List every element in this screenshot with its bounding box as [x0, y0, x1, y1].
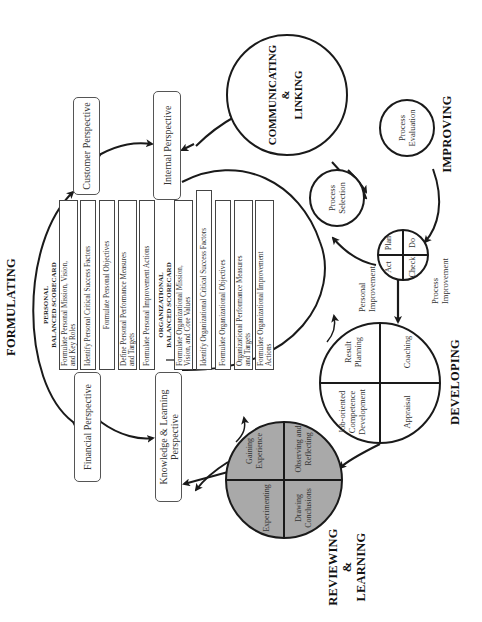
process-improvement-label: Process Improvement [430, 244, 450, 304]
label-line: and Targets [128, 204, 136, 366]
customer-perspective-box: Customer Perspective [73, 97, 100, 195]
label-line: Knowledge & Learning [158, 390, 169, 485]
observing-reflecting-label: Observing and Reflecting [294, 422, 314, 476]
label-line: Job-oriented [337, 383, 347, 441]
personal-step-2: Identify Personal Critical Success Facto… [80, 200, 96, 370]
organizational-step-4: Organizational Performance Measures and … [234, 200, 253, 370]
financial-perspective-box: Financial Perspective [74, 372, 101, 482]
label-line: REVIEWING [326, 522, 340, 612]
label-line: & [340, 522, 354, 612]
process-selection-label: Process Selection [327, 170, 347, 226]
pdca-plan: Plan [384, 232, 394, 254]
label-line: Actions [265, 204, 273, 366]
organizational-step-5: Formulate Organizational Improvement Act… [255, 200, 274, 370]
organizational-step-3: Formulate Organizational Objectives [215, 200, 231, 370]
label-line: Perspective [169, 414, 180, 460]
label-line: Selection [337, 170, 347, 226]
personal-scorecard-heading: PERSONAL BALANCED SCORECARD [43, 240, 58, 370]
developing-reviewing-arrow [340, 444, 380, 468]
pdca-act: Act [384, 256, 394, 278]
label-line: Process [430, 244, 440, 304]
label-line: LEARNING [354, 522, 368, 612]
label-line: BALANCED SCORECARD [166, 240, 174, 370]
phase-communicating-linking: COMMUNICATING & LINKING [266, 35, 305, 155]
label-line: & [279, 35, 292, 155]
label-line: Drawing [294, 482, 304, 534]
label-line: Formulate Personal Mission, Vision, [61, 204, 69, 366]
pdca-check: Check [408, 254, 418, 280]
experimenting-label: Experimenting [262, 480, 272, 536]
label-line: Formulate Personal Improvement Actions [143, 204, 151, 366]
appraisal-label: Appraisal [402, 385, 412, 439]
result-planning-label: Result Planning [343, 326, 363, 378]
label-line: Formulate Organizational Mission, [176, 204, 184, 366]
label-line: Formulate Organizational Improvement [257, 204, 265, 366]
internal-perspective-box: Internal Perspective [153, 91, 181, 200]
label-line: BALANCED SCORECARD [51, 240, 59, 370]
organizational-step-2: Identify Organizational Critical Success… [196, 190, 212, 370]
personal-step-4: Define Personal Performance Measures and… [118, 200, 137, 370]
label-line: Development [357, 383, 367, 441]
label-line: Personal [357, 252, 367, 312]
phase-improving: IMPROVING [440, 84, 454, 184]
pdca-do: Do [408, 232, 418, 254]
customer-internal-arrow [101, 143, 152, 154]
label-line: Improvement [367, 252, 377, 312]
personal-step-3: Formulate Personal Objectives [99, 200, 115, 370]
label-line: Identify Personal Critical Success Facto… [84, 204, 92, 366]
label-line: COMMUNICATING [266, 35, 279, 155]
label-line: Evaluation [407, 100, 417, 156]
diagram-canvas: FORMULATING COMMUNICATING & LINKING IMPR… [0, 0, 482, 622]
personal-step-1: Formulate Personal Mission, Vision, and … [59, 200, 78, 370]
drawing-conclusions-label: Drawing Conclusions [294, 482, 314, 534]
label-line: Improvement [440, 244, 450, 304]
label-line: and Targets [244, 204, 252, 366]
label-line: Gaining [245, 426, 255, 476]
competence-development-label: Job-oriented Competence Development [337, 383, 367, 441]
label-line: Vision, and Core Values [184, 204, 192, 366]
label-line: Planning [353, 326, 363, 378]
knowledge-learning-perspective-box: Knowledge & Learning Perspective [155, 372, 182, 502]
organizational-step-1: Formulate Organizational Mission, Vision… [174, 200, 193, 370]
process-evaluation-label: Process Evaluation [397, 100, 417, 156]
coaching-label: Coaching [402, 326, 412, 378]
label-line: Result [343, 326, 353, 378]
rotated-diagram-frame: FORMULATING COMMUNICATING & LINKING IMPR… [0, 0, 482, 622]
phase-reviewing-learning: REVIEWING & LEARNING [326, 522, 368, 612]
label-line: Formulate Personal Objectives [103, 241, 111, 330]
label-line: Conclusions [304, 482, 314, 534]
label-line: Experience [255, 426, 265, 476]
label-line: Organizational Performance Measures [236, 204, 244, 366]
label-line: and Key Roles [69, 204, 77, 366]
financial-knowledge-arrow [101, 422, 153, 438]
label-line: Observing and [294, 422, 304, 476]
personal-improvement-label: Personal Improvement [357, 252, 377, 312]
organizational-scorecard-heading: ORGANIZATIONAL BALANCED SCORECARD [158, 240, 173, 370]
label-line: Formulate Organizational Objectives [219, 204, 227, 366]
label-line: LINKING [292, 35, 305, 155]
personal-step-5: Formulate Personal Improvement Actions [139, 200, 155, 370]
gaining-experience-label: Gaining Experience [245, 426, 265, 476]
internal-communicating-arrow [196, 116, 236, 146]
label-line: Process [397, 100, 407, 156]
label-line: Process [327, 170, 337, 226]
phase-formulating: FORMULATING [4, 247, 18, 367]
label-line: Competence [347, 383, 357, 441]
label-line: Reflecting [304, 422, 314, 476]
label-line: Identify Organizational Critical Success… [200, 194, 208, 366]
label-line: Define Personal Performance Measures [120, 204, 128, 366]
evaluation-pdca-arrow [425, 169, 439, 242]
phase-developing: DEVELOPING [448, 332, 462, 432]
